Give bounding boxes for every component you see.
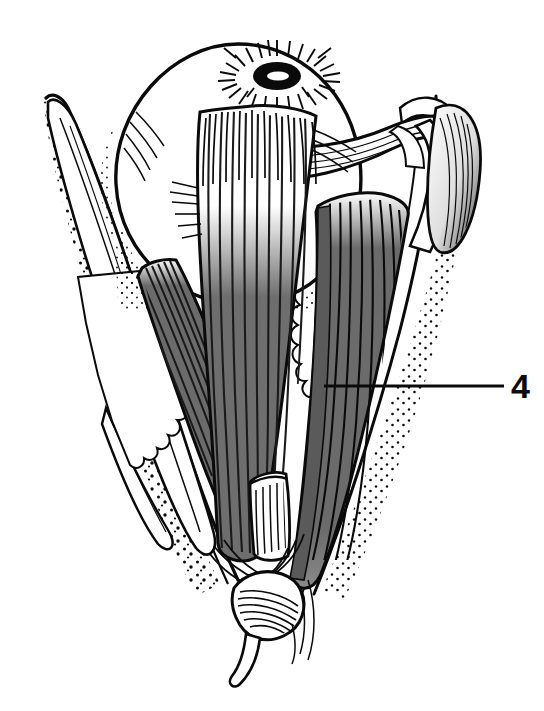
pupil-highlight [267,71,289,80]
cut-muscle-stump-group [250,472,290,560]
anatomy-illustration [0,0,544,711]
figure-canvas: 4 [0,0,544,711]
label-4: 4 [511,369,530,403]
